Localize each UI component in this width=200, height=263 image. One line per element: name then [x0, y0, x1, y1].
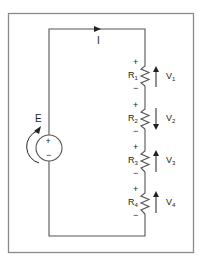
diagram-frame	[9, 14, 194, 253]
r4-label: R4	[128, 197, 139, 208]
r1-label: R1	[128, 70, 139, 81]
r2-plus: +	[133, 100, 138, 110]
r2-label: R2	[128, 113, 139, 124]
r4-plus: +	[133, 184, 138, 194]
r4-minus: −	[133, 210, 138, 220]
resistor-r2: + R2 − V2	[128, 100, 176, 136]
r3-label: R3	[128, 155, 139, 166]
v4-label: V4	[166, 197, 176, 208]
resistor-r4: + R4 − V4	[128, 184, 176, 220]
source-label: E	[35, 113, 42, 124]
circuit-diagram: I + − E + R1 − V1 + R2 − V2 + R3 − V3	[0, 0, 200, 263]
resistor-zigzag-icon	[141, 63, 149, 86]
voltage-source: + − E	[27, 113, 62, 163]
resistor-r1: + R1 − V1	[128, 57, 176, 93]
resistor-zigzag-icon	[141, 190, 149, 214]
emf-arrowhead-icon	[34, 126, 41, 134]
v1-label: V1	[166, 71, 176, 82]
r1-plus: +	[133, 57, 138, 67]
source-minus: −	[46, 150, 51, 160]
current-label: I	[97, 35, 100, 46]
resistor-zigzag-icon	[141, 106, 149, 129]
r3-minus: −	[133, 168, 138, 178]
r1-minus: −	[133, 83, 138, 93]
resistor-zigzag-icon	[141, 148, 149, 172]
current-arrow-icon	[94, 26, 101, 32]
source-plus: +	[46, 136, 51, 146]
r3-plus: +	[133, 142, 138, 152]
resistor-r3: + R3 − V3	[128, 142, 176, 178]
r2-minus: −	[133, 126, 138, 136]
v3-label: V3	[166, 155, 176, 166]
v2-label: V2	[166, 113, 176, 124]
